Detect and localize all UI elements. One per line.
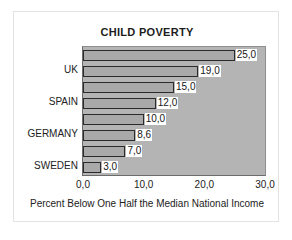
bar-value-label: 12,0 xyxy=(157,97,178,109)
bar-row: 19,0 xyxy=(83,66,265,77)
y-axis-label-uk: UK xyxy=(14,64,78,75)
x-axis-tick-labels: 0,010,020,030,0 xyxy=(82,179,266,193)
x-tick-label: 10,0 xyxy=(134,179,153,190)
bar-value-label: 7,0 xyxy=(126,145,142,157)
bar-value-label: 25,0 xyxy=(236,49,257,61)
bar[interactable] xyxy=(83,162,101,173)
x-axis-title: Percent Below One Half the Median Nation… xyxy=(14,198,280,209)
plot-area: 25,019,015,012,010,08,67,03,0 xyxy=(82,46,266,176)
bar-value-label: 8,6 xyxy=(136,129,152,141)
bar[interactable] xyxy=(83,66,198,77)
bar-value-label: 10,0 xyxy=(145,113,166,125)
bar-row: 10,0 xyxy=(83,114,265,125)
y-axis-category-labels: UKSPAINGERMANYSWEDEN xyxy=(14,46,78,176)
bar-row: 7,0 xyxy=(83,146,265,157)
x-tick-label: 30,0 xyxy=(255,179,274,190)
bar[interactable] xyxy=(83,50,235,61)
bar[interactable] xyxy=(83,98,156,109)
x-tick-label: 0,0 xyxy=(76,179,90,190)
bar-row: 3,0 xyxy=(83,162,265,173)
y-axis-label-sweden: SWEDEN xyxy=(14,160,78,171)
bar[interactable] xyxy=(83,82,174,93)
bar[interactable] xyxy=(83,146,125,157)
bar-row: 15,0 xyxy=(83,82,265,93)
y-axis-label-spain: SPAIN xyxy=(14,96,78,107)
bar-row: 25,0 xyxy=(83,50,265,61)
y-axis-label-germany: GERMANY xyxy=(14,128,78,139)
bar-value-label: 3,0 xyxy=(102,161,118,173)
bar-row: 8,6 xyxy=(83,130,265,141)
bar[interactable] xyxy=(83,130,135,141)
bar-value-label: 19,0 xyxy=(199,65,220,77)
x-tick-label: 20,0 xyxy=(195,179,214,190)
bar-value-label: 15,0 xyxy=(175,81,196,93)
chart-title: CHILD POVERTY xyxy=(14,26,280,38)
bar-row: 12,0 xyxy=(83,98,265,109)
chart-card: CHILD POVERTY UKSPAINGERMANYSWEDEN 25,01… xyxy=(13,11,279,222)
bar[interactable] xyxy=(83,114,144,125)
